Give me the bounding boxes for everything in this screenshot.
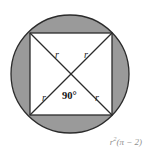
geometry-diagram-svg [0,0,145,149]
central-angle-label: 90° [62,91,77,102]
radius-label-bottom-left: r [42,93,46,103]
caption-expression: (π − 2) [116,137,142,147]
radius-label-bottom-right: r [95,93,99,103]
radius-label-top-left: r [55,50,59,60]
geometry-figure: r r r r 90° r2(π − 2) [0,0,145,149]
area-formula-caption: r2(π − 2) [110,138,142,147]
radius-label-top-right: r [84,50,88,60]
